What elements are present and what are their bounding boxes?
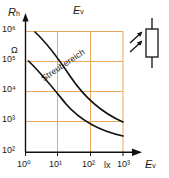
y-tick-1e3: 10³ <box>2 115 15 124</box>
x-tick-1e0: 10⁰ <box>17 160 31 169</box>
figure-title-symbol-subscript: v <box>80 8 84 15</box>
y-tick-1e4: 10⁴ <box>2 85 16 94</box>
x-tick-1e3: 10³ <box>117 160 130 169</box>
x-axis-unit: lx <box>104 161 111 170</box>
y-axis-symbol-subscript: h <box>16 10 20 17</box>
x-tick-1e1: 10¹ <box>49 160 62 169</box>
light-arrows-icon <box>130 32 143 52</box>
figure-title-symbol: Ev <box>73 5 84 16</box>
x-axis-label: Ev <box>145 159 156 170</box>
y-axis-symbol: R <box>8 6 16 18</box>
ldr-photoresistor-symbol <box>130 18 158 68</box>
x-axis-symbol-subscript: v <box>152 162 156 169</box>
y-tick-1e2: 10² <box>2 146 15 155</box>
x-tick-1e2: 10² <box>82 160 95 169</box>
y-axis-label: Rh <box>8 7 20 18</box>
y-tick-1e6: 10⁶ <box>2 25 16 34</box>
y-tick-1e5: 10⁵ <box>2 55 16 64</box>
ldr-resistance-vs-illuminance-chart <box>0 0 169 178</box>
